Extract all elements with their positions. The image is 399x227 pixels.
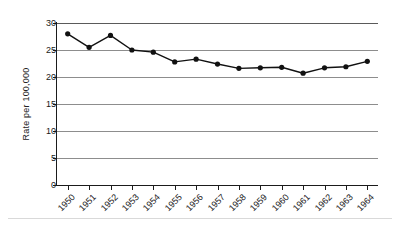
data-point-1954 (151, 50, 156, 55)
data-point-1959 (258, 65, 263, 70)
data-point-1953 (129, 47, 134, 52)
data-point-1950 (65, 31, 70, 36)
data-point-1958 (236, 66, 241, 71)
data-point-1955 (172, 59, 177, 64)
y-tick-mark-15 (53, 104, 57, 105)
data-point-1964 (365, 59, 370, 64)
data-point-1957 (215, 61, 220, 66)
y-tick-mark-20 (53, 77, 57, 78)
data-point-1951 (87, 45, 92, 50)
bottom-rule (8, 218, 392, 219)
y-tick-mark-5 (53, 158, 57, 159)
data-point-1956 (194, 57, 199, 62)
y-tick-mark-25 (53, 50, 57, 51)
data-point-1963 (343, 64, 348, 69)
y-tick-mark-30 (53, 23, 57, 24)
series-layer (0, 0, 399, 227)
data-point-1952 (108, 33, 113, 38)
data-point-1961 (301, 71, 306, 76)
series-markers (65, 31, 370, 76)
y-tick-mark-0 (53, 185, 57, 186)
data-point-1962 (322, 65, 327, 70)
y-tick-mark-10 (53, 131, 57, 132)
chart-figure: Rate per 100,000 051015202530 1950195119… (0, 0, 399, 227)
data-point-1960 (279, 65, 284, 70)
